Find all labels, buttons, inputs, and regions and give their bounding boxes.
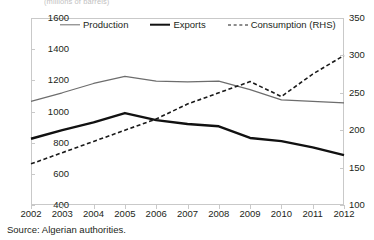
legend-label-consumption: Consumption (RHS) [251, 19, 336, 30]
y-axis-right-tick-mark [340, 18, 344, 19]
legend-item-production: Production [60, 19, 128, 30]
series-line-exports [31, 113, 344, 155]
y-axis-right-tick-mark [340, 93, 344, 94]
chart-figure: (millions of barrels) 160014001200100080… [0, 0, 374, 240]
y-axis-left-tick-mark [31, 143, 35, 144]
y-axis-right-tick-mark [340, 168, 344, 169]
series-line-production [31, 76, 344, 102]
x-axis-tick-mark [313, 205, 314, 209]
y-axis-left-tick-mark [31, 49, 35, 50]
legend-label-exports: Exports [173, 19, 205, 30]
x-axis-tick-mark [188, 205, 189, 209]
chart-legend: Production Exports Consumption (RHS) [60, 19, 336, 30]
y-axis-left-tick-label: 600 [41, 169, 69, 179]
y-axis-left-tick-mark [31, 112, 35, 113]
y-axis-right-tick-label: 300 [349, 50, 374, 60]
y-axis-left-tick-label: 1000 [41, 107, 69, 117]
legend-item-consumption: Consumption (RHS) [228, 19, 336, 30]
line-swatch-icon [150, 21, 170, 29]
y-axis-right-tick-mark [340, 55, 344, 56]
y-axis-left-tick-label: 1400 [41, 44, 69, 54]
source-note: Source: Algerian authorities. [7, 224, 126, 235]
y-axis-left-tick-label: 1200 [41, 75, 69, 85]
y-axis-right-tick-label: 200 [349, 125, 374, 135]
dashed-line-swatch-icon [228, 21, 248, 29]
series-line-consumption-rhs [31, 55, 344, 163]
y-axis-left-tick-mark [31, 174, 35, 175]
y-axis-left-tick-mark [31, 80, 35, 81]
legend-label-production: Production [83, 19, 128, 30]
y-axis-left-tick-label: 800 [41, 138, 69, 148]
x-axis-tick-mark [281, 205, 282, 209]
x-axis-tick-mark [125, 205, 126, 209]
y-axis-right-tick-label: 250 [349, 88, 374, 98]
x-axis-tick-mark [250, 205, 251, 209]
plot-area [31, 18, 344, 205]
y-axis-right-tick-label: 350 [349, 13, 374, 23]
x-axis-tick-mark [62, 205, 63, 209]
x-axis-tick-mark [156, 205, 157, 209]
line-swatch-icon [60, 21, 80, 29]
legend-item-exports: Exports [150, 19, 205, 30]
x-axis-tick-mark [31, 205, 32, 209]
x-axis-tick-mark [344, 205, 345, 209]
y-axis-right-tick-mark [340, 130, 344, 131]
y-axis-left-tick-mark [31, 18, 35, 19]
x-axis-tick-mark [219, 205, 220, 209]
chart-title: (millions of barrels) [44, 0, 109, 6]
x-axis-tick-label: 2012 [324, 208, 364, 219]
series-canvas [31, 18, 344, 205]
x-axis-tick-mark [94, 205, 95, 209]
y-axis-right-tick-label: 150 [349, 163, 374, 173]
